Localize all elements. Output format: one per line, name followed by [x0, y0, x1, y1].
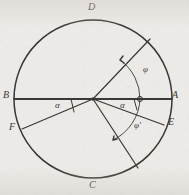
- point-label-F: F: [9, 122, 15, 132]
- circle-diagram-figure: D A E C F B α α φ φ': [0, 0, 189, 195]
- point-label-A: A: [172, 90, 178, 100]
- angle-label-phi-prime: φ': [134, 121, 141, 130]
- angle-label-phi: φ: [143, 65, 148, 74]
- alpha-right-tick: [134, 99, 137, 110]
- phi-arc-arrowhead: [120, 56, 124, 63]
- point-label-D: D: [88, 2, 95, 12]
- point-label-C: C: [89, 180, 96, 190]
- point-label-B: B: [3, 90, 9, 100]
- angle-label-alpha-right: α: [120, 101, 125, 110]
- diagram-canvas: [0, 0, 189, 195]
- center-dot-icon: [92, 98, 94, 100]
- point-label-E: E: [168, 117, 174, 127]
- alpha-left-tick: [71, 99, 74, 112]
- chord-center-e: [93, 99, 164, 125]
- radius-upper-right: [93, 39, 150, 99]
- radius-lower-right: [93, 99, 138, 168]
- angle-label-alpha-left: α: [55, 101, 60, 110]
- phi-arc: [120, 60, 140, 99]
